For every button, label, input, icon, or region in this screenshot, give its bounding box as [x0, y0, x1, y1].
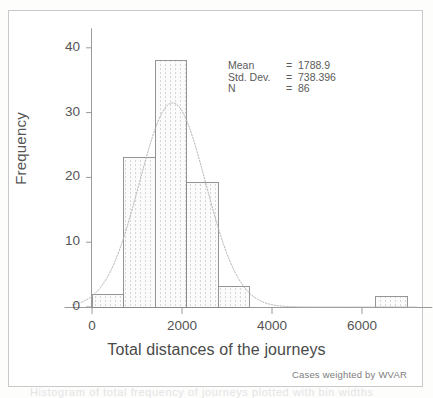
histogram-bar-3	[155, 61, 187, 307]
statistic-label: N	[228, 83, 280, 95]
statistics-row: Mean=1788.9	[228, 60, 336, 72]
y-tick-label: 40	[46, 39, 80, 54]
statistic-equals-sign: =	[280, 83, 298, 95]
y-tick-label: 20	[46, 168, 80, 183]
statistic-label: Std. Dev.	[228, 72, 280, 84]
histogram-bar-6	[376, 297, 408, 307]
x-tick-label: 6000	[332, 318, 392, 333]
statistic-equals-sign: =	[280, 60, 298, 72]
x-tick-label: 4000	[242, 318, 302, 333]
statistic-value: 86	[298, 83, 336, 95]
histogram-bar-2	[124, 158, 156, 307]
statistics-table: Mean=1788.9Std. Dev.=738.396N=86	[228, 60, 336, 95]
statistic-label: Mean	[228, 60, 280, 72]
y-tick-label: 10	[46, 233, 80, 248]
x-axis-title: Total distances of the journeys	[0, 341, 433, 359]
histogram-svg	[0, 0, 433, 398]
figure-page: Histogram of total frequency of journeys…	[0, 0, 433, 398]
x-tick-label: 2000	[152, 318, 212, 333]
x-tick-label: 0	[62, 318, 122, 333]
histogram-bar-5	[218, 286, 250, 307]
statistics-row: Std. Dev.=738.396	[228, 72, 336, 84]
histogram-bar-1	[92, 294, 124, 307]
y-axis-title: Frequency	[12, 69, 29, 229]
statistics-annotation: Mean=1788.9Std. Dev.=738.396N=86	[228, 60, 336, 95]
y-tick-label: 0	[46, 298, 80, 313]
weighting-footnote: Cases weighted by WVAR	[292, 369, 407, 380]
histogram-bar-4	[187, 183, 219, 307]
statistics-row: N=86	[228, 83, 336, 95]
statistic-value: 1788.9	[298, 60, 336, 72]
histogram-plot: Frequency 010203040 0200040006000 Total …	[0, 0, 433, 398]
y-tick-label: 30	[46, 104, 80, 119]
